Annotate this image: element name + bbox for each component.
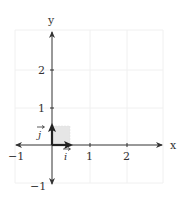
y-tick-label: −1 <box>30 180 46 193</box>
x-tick-label: −1 <box>8 150 24 163</box>
x-tick-label: 2 <box>123 150 130 163</box>
svg-text:i: i <box>64 151 67 162</box>
y-axis-label: y <box>47 14 55 27</box>
vector-j-label: j <box>36 126 45 141</box>
svg-text:j: j <box>36 129 41 140</box>
coordinate-plane: x y −1 1 2 −1 1 2 i j <box>0 0 187 197</box>
x-axis-label: x <box>170 139 177 152</box>
y-tick-label: 1 <box>38 102 45 115</box>
y-tick-label: 2 <box>38 64 45 77</box>
shaded-region <box>52 126 70 145</box>
x-tick-label: 1 <box>86 150 93 163</box>
vector-i-label: i <box>63 148 71 163</box>
